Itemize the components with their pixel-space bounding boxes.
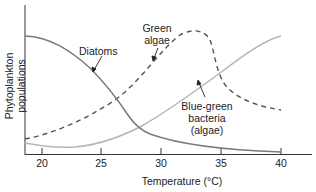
- x-tick-30: 30: [155, 157, 167, 169]
- annotation-green-algae: Green algae: [137, 22, 177, 46]
- x-axis-label: Temperature (°C): [122, 175, 242, 187]
- x-tick-25: 25: [95, 157, 107, 169]
- annotation-diatoms: Diatoms: [79, 45, 118, 57]
- x-tick-40: 40: [275, 157, 287, 169]
- annotation-bg-line2: bacteria: [177, 112, 237, 124]
- annotation-green-line2: algae: [137, 34, 177, 46]
- annotation-bg-line1: Blue-green: [177, 100, 237, 112]
- phytoplankton-chart: Phytoplankton populations Diatoms Green …: [0, 0, 316, 192]
- series-diatoms-line: [25, 36, 281, 152]
- annotation-blue-green: Blue-green bacteria (algae): [177, 100, 237, 136]
- annotation-bg-line3: (algae): [177, 124, 237, 136]
- series-blue-green-line: [25, 36, 281, 147]
- x-tick-35: 35: [215, 157, 227, 169]
- x-tick-20: 20: [36, 157, 48, 169]
- x-axis-ticks: [42, 148, 281, 155]
- annotation-green-line1: Green: [137, 22, 177, 34]
- y-axis-label: Phytoplankton populations: [3, 26, 27, 146]
